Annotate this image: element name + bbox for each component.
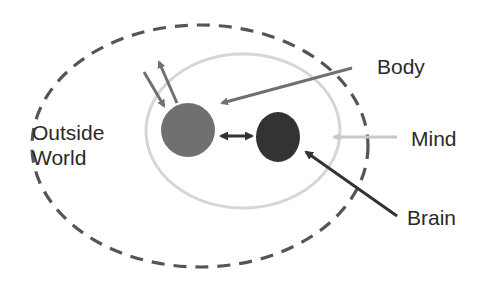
body-pointer-arrow bbox=[222, 68, 352, 103]
body-node bbox=[161, 103, 215, 157]
brain-label: Brain bbox=[407, 205, 456, 230]
body-label: Body bbox=[377, 54, 425, 79]
mind-label: Mind bbox=[411, 126, 457, 151]
outside-world-label: Outside World bbox=[32, 120, 104, 170]
brain-node bbox=[256, 112, 300, 162]
diagram-canvas: Outside World Body Mind Brain bbox=[0, 0, 493, 285]
outside-world-label-line1: Outside bbox=[32, 120, 104, 145]
brain-pointer-arrow bbox=[306, 152, 397, 216]
body-to-world-arrow bbox=[159, 62, 177, 103]
outside-world-label-line2: World bbox=[32, 145, 104, 170]
